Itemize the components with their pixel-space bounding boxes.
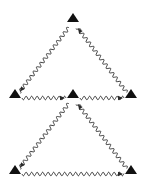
wavy-edge-bot_left-bot_right [22,172,124,176]
wavy-triangle-diagram [0,0,145,189]
vertex-triangle-icon [67,13,79,22]
vertices-group [9,13,137,174]
wavy-edge-mid_center-bot_left [20,103,69,169]
wavy-edge-mid_center-mid_right [80,96,124,100]
vertex-triangle-icon [67,89,79,98]
vertex-triangle-icon [9,165,21,174]
wavy-edge-mid_right-top [76,29,127,93]
wavy-edge-top-mid_left [20,27,69,93]
wavy-edge-mid_left-mid_center [22,96,66,100]
wavy-edge-bot_right-mid_center [76,105,127,169]
vertex-triangle-icon [9,89,21,98]
edges-group [20,27,128,176]
